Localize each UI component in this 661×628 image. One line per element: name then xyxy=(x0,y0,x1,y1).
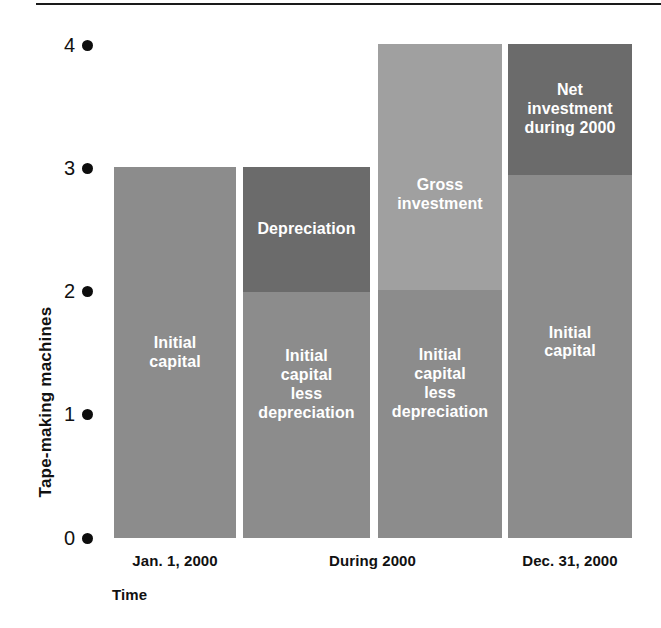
bar-segment-gross-investment[interactable]: Gross investment xyxy=(378,44,502,290)
bar-segment-depreciation[interactable]: Depreciation xyxy=(243,167,370,292)
x-tick-label-jan-1-2000: Jan. 1, 2000 xyxy=(114,552,236,569)
bar-segment-net-investment[interactable]: Net investment during 2000 xyxy=(508,44,632,175)
bar-segment-initial-capital[interactable]: Initial capital xyxy=(114,167,236,538)
x-tick-label-during-2000: During 2000 xyxy=(243,552,502,569)
x-tick-label-dec-31-2000: Dec. 31, 2000 xyxy=(508,552,632,569)
x-axis-title: Time xyxy=(112,586,147,603)
bar-segment-label: Net investment during 2000 xyxy=(521,81,620,138)
bar-jan-1-2000[interactable]: Initial capital xyxy=(114,167,236,538)
bar-during-2000-gross-investment[interactable]: Gross investment Initial capital less de… xyxy=(378,44,502,538)
bar-segment-label: Initial capital less depreciation xyxy=(388,346,492,422)
bar-segment-label: Depreciation xyxy=(253,220,359,239)
bar-segment-label: Initial capital less depreciation xyxy=(254,347,358,423)
bar-segment-initial-capital[interactable]: Initial capital xyxy=(508,175,632,538)
plot-area: Initial capital Depreciation Initial cap… xyxy=(0,0,661,628)
bar-segment-label: Initial capital xyxy=(540,324,599,362)
bar-segment-initial-capital-less-depreciation[interactable]: Initial capital less depreciation xyxy=(378,290,502,538)
bar-during-2000-depreciation[interactable]: Depreciation Initial capital less deprec… xyxy=(243,167,370,538)
bar-segment-initial-capital-less-depreciation[interactable]: Initial capital less depreciation xyxy=(243,292,370,538)
bar-segment-label: Initial capital xyxy=(145,334,204,372)
bar-segment-label: Gross investment xyxy=(393,176,486,214)
chart-figure: Tape-making machines 4 3 2 1 0 Initial c… xyxy=(0,0,661,628)
bar-dec-31-2000[interactable]: Net investment during 2000 Initial capit… xyxy=(508,44,632,538)
